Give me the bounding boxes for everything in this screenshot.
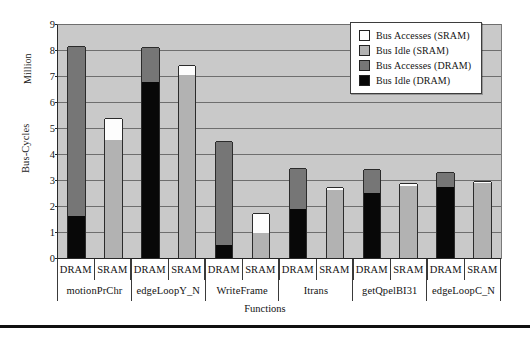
x-axis-function-row: motionPrChredgeLoopY_NWriteFrameItransge… [57,280,501,301]
legend-item-idle_sram: Bus Idle (SRAM) [359,43,471,58]
x-label-memory-edgeLoopC_N-DRAM: DRAM [427,259,465,280]
gridline-5 [58,128,501,129]
bar-edgeLoopY_N-SRAM [178,66,196,259]
x-axis-label-table: DRAMSRAMDRAMSRAMDRAMSRAMDRAMSRAMDRAMSRAM… [57,259,501,301]
segment-bus-accesses-sram [105,118,121,139]
y-tick-label-8: 8 [29,45,55,56]
segment-bus-accesses-sram [179,65,195,75]
segment-bus-idle-dram [290,209,306,258]
segment-bus-idle-sram [179,75,195,258]
segment-bus-accesses-sram [253,213,269,233]
legend: Bus Accesses (SRAM)Bus Idle (SRAM)Bus Ac… [350,22,482,94]
x-label-memory-getQpelBI31-DRAM: DRAM [353,259,391,280]
legend-item-idle_dram: Bus Idle (DRAM) [359,73,471,88]
x-label-function-WriteFrame: WriteFrame [206,280,280,301]
x-label-memory-WriteFrame-DRAM: DRAM [205,259,243,280]
legend-label-idle_sram: Bus Idle (SRAM) [376,45,449,56]
bottom-rule [0,325,530,328]
gridline-4 [58,154,501,155]
segment-bus-accesses-dram [216,141,232,245]
x-label-memory-Itrans-DRAM: DRAM [279,259,317,280]
y-tick-label-4: 4 [29,149,55,160]
legend-label-acc_sram: Bus Accesses (SRAM) [376,30,470,41]
y-axis-ticks: 0123456789 [22,24,55,258]
segment-bus-idle-dram [68,216,84,258]
x-label-function-Itrans: Itrans [279,280,353,301]
legend-swatch-acc_sram [359,30,370,41]
bar-edgeLoopY_N-DRAM [141,48,159,259]
bar-WriteFrame-DRAM [215,142,233,259]
legend-label-acc_dram: Bus Accesses (DRAM) [376,60,471,71]
bar-edgeLoopC_N-DRAM [436,173,454,259]
segment-bus-idle-sram [105,140,121,258]
x-label-memory-Itrans-SRAM: SRAM [317,259,354,280]
segment-bus-idle-sram [327,190,343,258]
x-label-function-edgeLoopY_N: edgeLoopY_N [132,280,206,301]
segment-bus-idle-sram [474,183,490,258]
x-label-memory-getQpelBI31-SRAM: SRAM [391,259,428,280]
y-tick-label-9: 9 [29,19,55,30]
segment-bus-idle-dram [216,245,232,258]
legend-item-acc_sram: Bus Accesses (SRAM) [359,28,471,43]
bar-motionPrChr-DRAM [67,47,85,259]
y-tick-label-3: 3 [29,175,55,186]
gridline-3 [58,180,501,181]
gridline-1 [58,232,501,233]
bar-getQpelBI31-DRAM [363,170,381,259]
gridline-2 [58,206,501,207]
bar-Itrans-SRAM [326,188,344,260]
x-label-memory-edgeLoopC_N-SRAM: SRAM [465,259,502,280]
segment-bus-accesses-dram [437,172,453,187]
segment-bus-accesses-sram [474,181,490,184]
segment-bus-idle-sram [253,233,269,258]
bar-chart-figure: Million Bus-Cycles 0123456789 Bus Access… [0,0,530,337]
x-label-memory-motionPrChr-DRAM: DRAM [57,259,95,280]
bar-getQpelBI31-SRAM [399,184,417,259]
bar-Itrans-DRAM [289,169,307,259]
y-tick-label-1: 1 [29,227,55,238]
x-label-memory-motionPrChr-SRAM: SRAM [95,259,132,280]
x-label-memory-edgeLoopY_N-SRAM: SRAM [169,259,206,280]
y-tick-label-6: 6 [29,97,55,108]
y-tick-label-2: 2 [29,201,55,212]
x-axis-memory-row: DRAMSRAMDRAMSRAMDRAMSRAMDRAMSRAMDRAMSRAM… [57,259,501,280]
segment-bus-idle-dram [364,193,380,258]
x-label-function-edgeLoopC_N: edgeLoopC_N [427,280,501,301]
segment-bus-idle-dram [437,187,453,258]
legend-label-idle_dram: Bus Idle (DRAM) [376,75,450,86]
legend-swatch-acc_dram [359,60,370,71]
segment-bus-accesses-sram [327,187,343,190]
x-label-function-getQpelBI31: getQpelBI31 [353,280,427,301]
gridline-6 [58,102,501,103]
bar-edgeLoopC_N-SRAM [473,182,491,259]
y-tick-label-7: 7 [29,71,55,82]
x-label-memory-WriteFrame-SRAM: SRAM [243,259,280,280]
segment-bus-idle-sram [400,186,416,258]
x-axis-title: Functions [0,303,530,314]
y-tick-label-0: 0 [29,253,55,264]
legend-item-acc_dram: Bus Accesses (DRAM) [359,58,471,73]
segment-bus-idle-dram [142,82,158,258]
x-label-function-motionPrChr: motionPrChr [57,280,132,301]
legend-swatch-idle_dram [359,75,370,86]
segment-bus-accesses-dram [290,168,306,209]
segment-bus-accesses-sram [400,183,416,186]
bar-WriteFrame-SRAM [252,214,270,259]
segment-bus-accesses-dram [68,46,84,216]
x-label-memory-edgeLoopY_N-DRAM: DRAM [131,259,169,280]
bar-motionPrChr-SRAM [104,119,122,259]
legend-swatch-idle_sram [359,45,370,56]
y-tick-label-5: 5 [29,123,55,134]
segment-bus-accesses-dram [364,169,380,193]
segment-bus-accesses-dram [142,47,158,81]
